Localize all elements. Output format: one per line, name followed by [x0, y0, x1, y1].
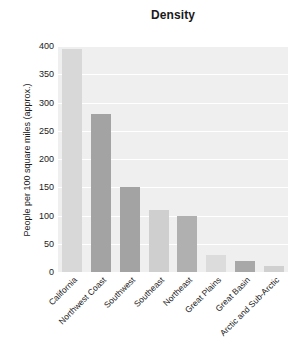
bar: [177, 216, 197, 273]
y-tick-label: 250: [24, 126, 54, 136]
plot-area: [58, 46, 288, 272]
x-axis-tick-labels: CaliforniaNorthwest CoastSouthwestSouthe…: [58, 272, 288, 362]
y-tick-label: 200: [24, 154, 54, 164]
x-tick-label-text: Southeast: [132, 275, 166, 309]
bar: [120, 187, 140, 272]
y-tick-label: 50: [24, 239, 54, 249]
bar: [149, 210, 169, 272]
y-tick-label: 150: [24, 182, 54, 192]
y-tick-label: 400: [24, 41, 54, 51]
y-tick-label: 0: [24, 267, 54, 277]
bar: [91, 114, 111, 272]
chart-figure: Density People per 100 square miles (app…: [0, 0, 297, 362]
y-tick-label: 300: [24, 98, 54, 108]
y-tick-label: 100: [24, 211, 54, 221]
y-tick-label: 350: [24, 69, 54, 79]
y-axis-tick-labels: 050100150200250300350400: [22, 46, 54, 272]
bar: [206, 255, 226, 272]
bar: [62, 49, 82, 272]
chart-title: Density: [58, 8, 288, 22]
bar-series: [58, 46, 288, 272]
bar: [235, 261, 255, 272]
